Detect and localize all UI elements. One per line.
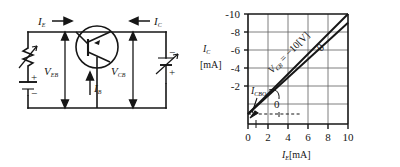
transistor-emitter-arrow	[94, 40, 100, 45]
chart-series	[248, 14, 348, 114]
vbattery-plus-sign: +	[169, 66, 175, 78]
series-label-vcb: VCB = −10[V]	[266, 29, 313, 76]
vbattery-minus-sign: −	[169, 46, 175, 58]
x-tick-label-2: 4	[285, 131, 291, 143]
collector-current-label: IC	[153, 15, 163, 28]
chart-svg: -10 -8 -6 -4 -2 0 2 4 6 8 10 IC [mA] IE[…	[200, 0, 400, 167]
veb-label: VEB	[44, 65, 58, 78]
y-tick-label-4: -2	[231, 80, 240, 92]
base-current-label: IB	[93, 82, 102, 95]
y-tick-label-3: -4	[231, 62, 241, 74]
circuit-svg: + − − +	[0, 0, 200, 167]
battery-minus-sign: −	[31, 87, 37, 99]
y-axis-title-unit: [mA]	[200, 59, 222, 70]
variable-resistor	[19, 46, 37, 68]
y-tick-label-2: -6	[231, 44, 241, 56]
y-axis-title-symbol: IC	[202, 43, 211, 55]
emitter-current-annotation: IE	[37, 15, 72, 28]
icbo-label: ICBO	[250, 85, 267, 97]
characteristic-chart-panel: -10 -8 -6 -4 -2 0 2 4 6 8 10 IC [mA] IE[…	[200, 0, 400, 167]
veb-annotation: VEB	[44, 32, 69, 108]
vcb-label: VCB	[111, 65, 126, 78]
emitter-current-label: IE	[37, 15, 46, 28]
y-tick-label-0: -10	[225, 8, 240, 20]
zero-callout-label: 0	[274, 98, 280, 110]
transistor-collector-lead	[88, 52, 110, 62]
x-axis-title: IE[mA]	[281, 149, 311, 161]
base-current-annotation: IB	[87, 72, 102, 95]
x-tick-label-5: 10	[343, 131, 355, 143]
figure-root: + − − +	[0, 0, 400, 167]
x-tick-label-4: 8	[325, 131, 331, 143]
x-tick-label-3: 6	[305, 131, 311, 143]
circuit-diagram-panel: + − − +	[0, 0, 200, 167]
vcb-annotation: VCB	[111, 32, 137, 108]
y-tick-label-1: -8	[231, 26, 241, 38]
battery-plus-sign: +	[31, 71, 37, 83]
collector-current-annotation: IC	[130, 15, 163, 28]
x-tick-label-0: 0	[245, 131, 251, 143]
icbo-callout: ICBO	[250, 85, 267, 118]
x-tick-label-1: 2	[265, 131, 271, 143]
